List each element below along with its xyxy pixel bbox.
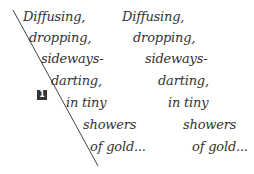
poem-line: darting, — [158, 73, 209, 89]
marker-number-badge: 1 — [37, 90, 47, 100]
poem-line: sideways- — [145, 51, 207, 67]
poem-line: of gold... — [90, 139, 146, 155]
poem-line: dropping, — [29, 30, 91, 46]
poem-line: Diffusing, — [23, 9, 85, 25]
poem-line: of gold... — [192, 139, 248, 155]
poem-line: in tiny — [168, 95, 208, 111]
poem-line: Diffusing, — [122, 9, 184, 25]
poem-line: dropping, — [133, 30, 195, 46]
poem-line: showers — [183, 117, 236, 133]
poem-line: darting, — [51, 73, 102, 89]
poem-line: sideways- — [41, 51, 103, 67]
poem-line: in tiny — [66, 95, 106, 111]
poem-line: showers — [83, 117, 136, 133]
